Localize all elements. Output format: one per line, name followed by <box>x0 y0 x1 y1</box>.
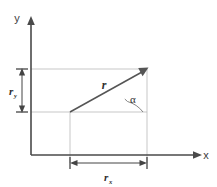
vector-r-label: r <box>102 78 107 92</box>
x-axis-label: x <box>203 149 209 161</box>
angle-alpha-label: α <box>130 93 136 105</box>
y-axis-label: y <box>14 12 20 24</box>
ry-label-subscript: y <box>13 92 17 99</box>
figure-background <box>0 0 217 187</box>
figure-canvas: y x r α r y r x <box>0 0 217 187</box>
vector-components-figure: y x r α r y r x <box>0 0 217 187</box>
